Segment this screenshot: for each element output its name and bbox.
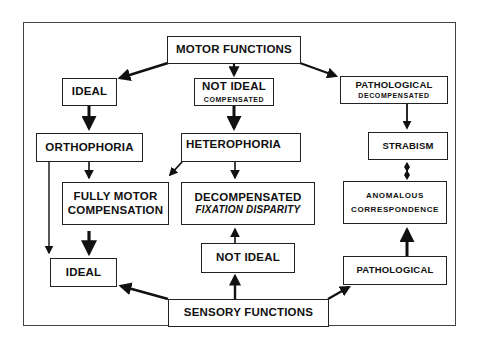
ideal-top-label: IDEAL: [72, 85, 108, 98]
pathological-decompensated-box: PATHOLOGICAL DECOMPENSATED: [340, 76, 448, 104]
fixation-disparity-line2: FIXATION DISPARITY: [196, 204, 301, 216]
anomalous-line1: ANOMALOUS: [366, 191, 424, 200]
heterophoria-label: HETEROPHORIA: [186, 138, 281, 151]
heterophoria-box: HETEROPHORIA: [181, 133, 301, 162]
not-ideal-compensated-box: NOT IDEAL COMPENSATED: [194, 78, 274, 106]
ideal-bottom-box: IDEAL: [50, 258, 117, 287]
pathological-label: PATHOLOGICAL: [356, 80, 433, 91]
anomalous-correspondence-box: ANOMALOUS CORRESPONDENCE: [343, 181, 447, 224]
not-ideal-bottom-box: NOT IDEAL: [201, 243, 295, 273]
ideal-top-box: IDEAL: [62, 78, 117, 106]
not-ideal-label: NOT IDEAL: [202, 80, 266, 93]
pathological-bottom-label: PATHOLOGICAL: [357, 265, 434, 276]
strabism-box: STRABISM: [368, 132, 448, 160]
pathological-bottom-box: PATHOLOGICAL: [343, 256, 447, 285]
motor-functions-box: MOTOR FUNCTIONS: [167, 36, 301, 64]
strabism-label: STRABISM: [382, 141, 433, 152]
fully-motor-line2: COMPENSATION: [68, 204, 163, 217]
decompensated-line1: DECOMPENSATED: [194, 191, 301, 204]
correspondence-line2: CORRESPONDENCE: [351, 205, 439, 214]
sensory-functions-label: SENSORY FUNCTIONS: [184, 306, 313, 319]
motor-functions-label: MOTOR FUNCTIONS: [176, 43, 292, 56]
not-ideal-bottom-label: NOT IDEAL: [216, 251, 280, 264]
orthophoria-box: ORTHOPHORIA: [36, 133, 143, 162]
fully-motor-compensation-box: FULLY MOTOR COMPENSATION: [62, 182, 169, 225]
fully-motor-line1: FULLY MOTOR: [74, 190, 158, 203]
decompensated-fixation-disparity-box: DECOMPENSATED FIXATION DISPARITY: [181, 182, 315, 225]
sensory-functions-box: SENSORY FUNCTIONS: [168, 299, 329, 327]
orthophoria-label: ORTHOPHORIA: [45, 141, 133, 154]
compensated-sublabel: COMPENSATED: [204, 96, 265, 104]
decompensated-sublabel: DECOMPENSATED: [358, 92, 429, 100]
ideal-bottom-label: IDEAL: [66, 266, 102, 279]
